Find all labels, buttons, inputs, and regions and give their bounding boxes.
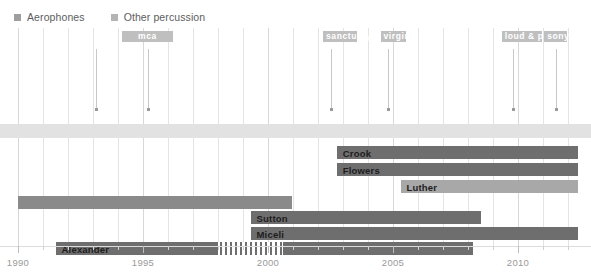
axis-tick — [493, 246, 494, 250]
axis-tick-label: 2000 — [257, 257, 279, 268]
axis-tick-label: 2005 — [382, 257, 404, 268]
background-band — [0, 124, 591, 138]
axis-tick — [368, 246, 369, 250]
plot-area: mcasanctuaryvirginloud & proudsony Not O… — [0, 28, 591, 246]
legend: Aerophones Other percussion — [14, 11, 205, 23]
gantt-timeline-chart: Aerophones Other percussion mcasanctuary… — [0, 0, 591, 273]
axis-tick — [243, 246, 244, 250]
x-axis: 19901995200020052010 — [0, 246, 591, 273]
axis-tick — [18, 246, 19, 253]
legend-item-other-percussion: Other percussion — [111, 11, 206, 23]
axis-tick — [418, 246, 419, 250]
axis-tick — [193, 246, 194, 250]
record-label-chip[interactable]: mca — [122, 31, 173, 42]
event-stem — [513, 49, 514, 110]
axis-tick — [343, 246, 344, 250]
event-stem — [331, 49, 332, 110]
bar-row-label: Luther — [407, 181, 438, 192]
axis-rule — [0, 246, 591, 247]
axis-tick — [518, 246, 519, 253]
axis-tick-label: 1990 — [7, 257, 29, 268]
square-swatch-icon — [111, 14, 118, 21]
bar-row[interactable]: Crook — [337, 146, 578, 159]
axis-tick — [468, 246, 469, 250]
axis-tick — [443, 246, 444, 250]
bar-row-label: Crook — [343, 147, 371, 158]
bar-row[interactable]: Flowers — [337, 163, 578, 176]
axis-tick — [293, 246, 294, 250]
axis-tick-label: 1995 — [132, 257, 154, 268]
axis-tick — [93, 246, 94, 250]
bar-row[interactable]: Miceli — [251, 227, 579, 240]
event-stem — [556, 49, 557, 110]
legend-item-aerophones: Aerophones — [14, 11, 85, 23]
axis-tick — [168, 246, 169, 250]
event-dot-icon — [555, 108, 558, 111]
event-dot-icon — [95, 108, 98, 111]
event-stem — [388, 49, 389, 110]
record-label-chip[interactable]: loud & proud — [502, 31, 542, 42]
bar-row[interactable] — [18, 196, 292, 209]
axis-tick-label: 2010 — [507, 257, 529, 268]
event-dot-icon — [387, 108, 390, 111]
event-stem — [96, 49, 97, 110]
square-swatch-icon — [14, 14, 21, 21]
bar-row-label: Flowers — [343, 164, 380, 175]
bar-row-label: Miceli — [257, 228, 285, 239]
event-dot-icon — [512, 108, 515, 111]
event-dot-icon — [147, 108, 150, 111]
legend-item-label: Aerophones — [27, 11, 85, 23]
axis-tick — [68, 246, 69, 250]
bar-row[interactable]: Sutton — [251, 211, 481, 224]
axis-tick — [318, 246, 319, 250]
axis-tick — [118, 246, 119, 250]
axis-tick — [543, 246, 544, 250]
event-dot-icon — [330, 108, 333, 111]
record-label-chip[interactable]: virgin — [381, 31, 406, 42]
axis-tick — [568, 246, 569, 250]
axis-tick — [143, 246, 144, 253]
record-label-chip[interactable]: sanctuary — [323, 31, 357, 42]
bar-row[interactable]: Luther — [401, 180, 579, 193]
record-label-chip[interactable]: sony — [544, 31, 567, 42]
legend-item-label: Other percussion — [124, 11, 206, 23]
bar-row-label: Sutton — [257, 212, 288, 223]
axis-tick — [268, 246, 269, 253]
axis-tick — [43, 246, 44, 250]
event-stem — [148, 49, 149, 110]
axis-tick — [393, 246, 394, 253]
axis-tick — [218, 246, 219, 250]
